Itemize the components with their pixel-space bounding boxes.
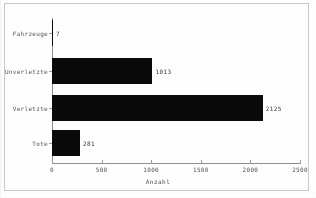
x-axis-tick-label: 1000 xyxy=(143,166,159,173)
bar-value-label: 281 xyxy=(83,140,95,147)
bar-chart: Tote281Verletzte2125Unverletzte1013Fahrz… xyxy=(0,0,316,198)
x-axis-tick xyxy=(201,160,202,164)
x-axis-tick-label: 500 xyxy=(96,166,108,173)
x-axis-line xyxy=(52,163,300,164)
x-axis-tick-label: 2500 xyxy=(292,166,308,173)
x-axis-tick xyxy=(52,160,53,164)
category-label: Unverletzte xyxy=(0,68,48,75)
category-label: Tote xyxy=(0,140,48,147)
bar xyxy=(52,130,80,156)
bar-value-label: 1013 xyxy=(155,68,171,75)
x-axis-tick-label: 1500 xyxy=(193,166,209,173)
x-axis-tick-label: 2000 xyxy=(243,166,259,173)
x-axis-title: Anzahl xyxy=(0,178,316,185)
category-label: Fahrzeuge xyxy=(0,30,48,37)
x-axis-tick xyxy=(102,160,103,164)
x-axis-tick-label: 0 xyxy=(50,166,54,173)
x-axis-tick xyxy=(250,160,251,164)
x-axis-tick xyxy=(300,160,301,164)
bar-value-label: 7 xyxy=(56,30,60,37)
category-label: Verletzte xyxy=(0,105,48,112)
x-axis-tick xyxy=(151,160,152,164)
bar xyxy=(52,20,53,46)
bar xyxy=(52,95,263,121)
bar xyxy=(52,58,152,84)
bar-value-label: 2125 xyxy=(266,105,282,112)
